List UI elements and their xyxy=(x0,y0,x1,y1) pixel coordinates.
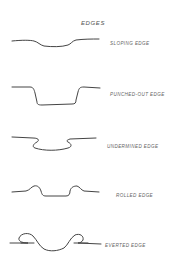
label-rolled-edge: ROLLED EDGE xyxy=(116,193,153,198)
rolled-edge-curve xyxy=(12,186,99,196)
label-punched-out-edge: PUNCHED-OUT EDGE xyxy=(110,92,165,97)
punched-out-edge-curve xyxy=(12,87,100,105)
label-undermined-edge: UNDERMINED EDGE xyxy=(107,144,158,149)
sloping-edge-curve xyxy=(12,39,99,47)
label-everted-edge: EVERTED EDGE xyxy=(105,243,146,248)
everted-edge-curve xyxy=(10,234,101,251)
edge-profiles xyxy=(0,0,185,265)
undermined-edge-curve xyxy=(12,137,96,150)
label-sloping-edge: SLOPING EDGE xyxy=(110,41,150,46)
